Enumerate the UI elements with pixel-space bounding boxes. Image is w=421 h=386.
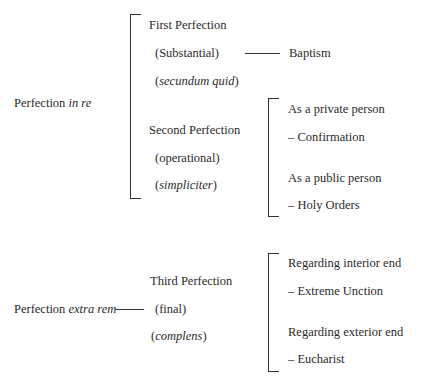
baptism-label: Baptism	[289, 46, 331, 60]
label-prefix: Perfection	[14, 96, 69, 110]
second-perfection-latin: (simpliciter)	[155, 178, 217, 192]
latin-term: simpliciter	[159, 178, 212, 192]
connector-baptism	[245, 53, 280, 54]
perfection-in-re-label: Perfection in re	[14, 96, 91, 110]
private-person-label: As a private person	[288, 102, 385, 116]
paren: )	[235, 74, 239, 88]
paren: )	[202, 329, 206, 343]
bracket-third-perfection	[268, 253, 279, 372]
connector-extra-rem	[115, 309, 144, 310]
interior-end-label: Regarding interior end	[288, 256, 401, 270]
label-italic: extra rem	[69, 302, 117, 316]
first-perfection-type: (Substantial)	[155, 46, 219, 60]
public-person-label: As a public person	[288, 171, 381, 185]
bracket-second-perfection	[268, 98, 279, 217]
third-perfection-title: Third Perfection	[150, 274, 232, 288]
third-perfection-latin: (complens)	[151, 329, 207, 343]
first-perfection-latin: (secundum quid)	[155, 74, 239, 88]
second-perfection-title: Second Perfection	[149, 123, 240, 137]
eucharist-label: – Eucharist	[288, 352, 345, 366]
third-perfection-type: (final)	[155, 302, 186, 316]
confirmation-label: – Confirmation	[288, 130, 365, 144]
exterior-end-label: Regarding exterior end	[288, 325, 403, 339]
first-perfection-title: First Perfection	[149, 18, 226, 32]
latin-term: secundum quid	[159, 74, 234, 88]
label-italic: in re	[69, 96, 92, 110]
holy-orders-label: – Holy Orders	[288, 198, 360, 212]
second-perfection-type: (operational)	[155, 151, 220, 165]
latin-term: complens	[155, 329, 202, 343]
bracket-in-re	[130, 14, 141, 199]
label-prefix: Perfection	[14, 302, 69, 316]
paren: )	[213, 178, 217, 192]
perfection-extra-rem-label: Perfection extra rem	[14, 302, 116, 316]
extreme-unction-label: – Extreme Unction	[288, 284, 383, 298]
